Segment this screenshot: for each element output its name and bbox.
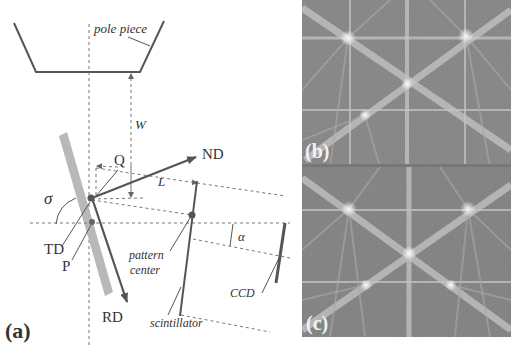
pattern-center-ray [92, 200, 192, 215]
detector-distance-label: L [157, 174, 165, 189]
w-baseline [92, 198, 145, 199]
rd-label: RD [102, 309, 123, 325]
pattern-center-dot [189, 212, 196, 219]
sigma-label: σ [44, 189, 53, 208]
panel-b-label: (b) [305, 140, 329, 163]
figure-canvas: pole piece W L α pattern center scintill… [0, 0, 520, 348]
pattern-center-label-line1: pattern [128, 248, 164, 262]
p-label: P [62, 258, 70, 274]
scintillator-leader [168, 287, 181, 315]
working-distance-label: W [135, 117, 147, 132]
p-leader [72, 225, 91, 260]
td-label: TD [44, 241, 64, 257]
ccd [276, 223, 285, 283]
q-label: Q [114, 152, 125, 168]
alpha-angle-marker [230, 224, 233, 246]
pole-piece-label: pole piece [93, 21, 147, 36]
panel-b-kikuchi-pattern [302, 0, 511, 167]
scintillator-label: scintillator [150, 316, 203, 330]
nd-axis-arrow [92, 157, 196, 198]
ebsd-geometry-figure: pole piece W L α pattern center scintill… [0, 0, 520, 348]
pole-piece-leader [128, 37, 150, 46]
panel-a: pole piece W L α pattern center scintill… [5, 21, 290, 348]
panel-a-label: (a) [5, 318, 31, 343]
sigma-angle-arc [56, 198, 76, 224]
panel-c-label: (c) [306, 312, 328, 335]
scintillator [180, 181, 197, 316]
scintillator-top-projection [197, 183, 286, 196]
sample-point-q [88, 195, 95, 202]
sample-point-p [89, 219, 95, 225]
pattern-center-label-line2: center [130, 263, 160, 277]
ccd-label: CCD [230, 286, 255, 300]
panel-c-kikuchi-pattern [302, 167, 511, 337]
alpha-label: α [238, 229, 246, 244]
nd-label: ND [202, 146, 224, 162]
